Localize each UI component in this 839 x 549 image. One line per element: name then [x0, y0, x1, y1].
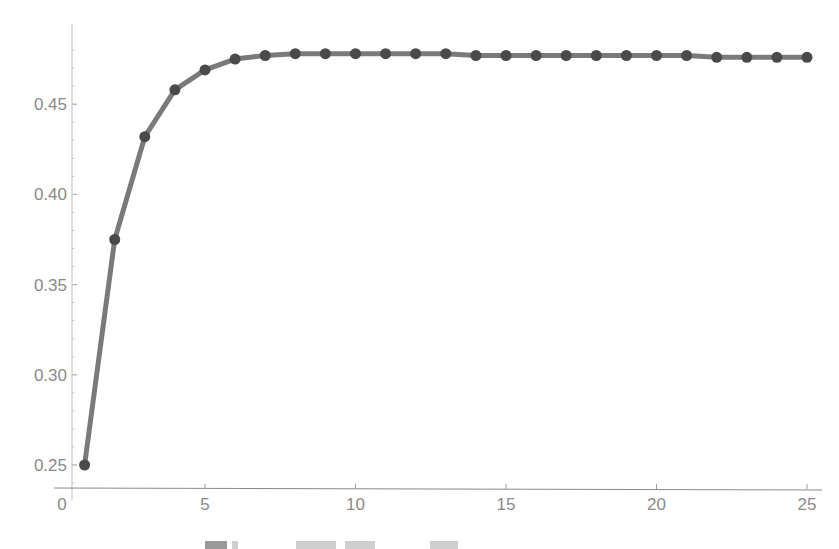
line-chart: 0.250.300.350.400.45 0510152025 — [0, 0, 839, 549]
x-tick-label: 0 — [57, 495, 66, 514]
data-point — [200, 64, 211, 75]
data-point — [470, 50, 481, 61]
data-point — [169, 84, 180, 95]
x-tick-label: 15 — [497, 495, 516, 514]
data-point — [320, 48, 331, 59]
data-point — [260, 50, 271, 61]
data-point — [741, 52, 752, 63]
x-tick-label: 5 — [200, 495, 209, 514]
data-point — [711, 52, 722, 63]
y-ticks: 0.250.300.350.400.45 — [34, 95, 77, 475]
data-point — [79, 460, 90, 471]
y-tick-label: 0.30 — [34, 366, 67, 385]
data-markers — [79, 48, 812, 470]
data-point — [681, 50, 692, 61]
data-point — [380, 48, 391, 59]
data-point — [771, 52, 782, 63]
x-tick-label: 25 — [798, 495, 817, 514]
data-point — [139, 131, 150, 142]
data-point — [230, 54, 241, 65]
x-tick-label: 10 — [346, 495, 365, 514]
y-tick-label: 0.35 — [34, 276, 67, 295]
data-point — [621, 50, 632, 61]
x-axis-line — [54, 488, 822, 490]
y-tick-label: 0.25 — [34, 456, 67, 475]
y-tick-label: 0.40 — [34, 185, 67, 204]
data-point — [591, 50, 602, 61]
data-point — [290, 48, 301, 59]
series-line — [85, 54, 807, 465]
data-point — [350, 48, 361, 59]
data-point — [531, 50, 542, 61]
x-tick-label: 20 — [647, 495, 666, 514]
figure-caption-cropped — [0, 530, 839, 549]
data-point — [561, 50, 572, 61]
data-point — [802, 52, 813, 63]
data-point — [651, 50, 662, 61]
data-point — [109, 234, 120, 245]
data-point — [410, 48, 421, 59]
data-point — [440, 48, 451, 59]
data-point — [501, 50, 512, 61]
y-tick-label: 0.45 — [34, 95, 67, 114]
